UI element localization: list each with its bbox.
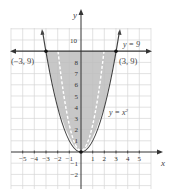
x-tick-label: −2 xyxy=(54,155,62,163)
x-tick-label: 5 xyxy=(138,155,142,163)
line-label: y = 9 xyxy=(122,40,140,49)
x-tick-label: 4 xyxy=(126,155,130,163)
y-tick-label: 6 xyxy=(75,81,79,89)
y-axis-arrow-icon xyxy=(79,9,84,15)
point-left xyxy=(44,49,48,53)
x-tick-label: 2 xyxy=(103,155,107,163)
point-origin xyxy=(79,150,83,154)
x-tick-label: 3 xyxy=(114,155,118,163)
chart: −5 −4 −3 −2 −1 1 2 3 4 5 10 8 7 6 5 4 3 … xyxy=(0,0,175,193)
point-left-label: (−3, 9) xyxy=(11,56,34,66)
x-tick-label: −4 xyxy=(31,155,39,163)
y-axis-label: y xyxy=(72,10,77,20)
parabola-right-arrow-icon xyxy=(118,29,122,35)
point-right-label: (3, 9) xyxy=(119,56,138,66)
x-tick-label: 1 xyxy=(91,155,95,163)
y-tick-label: 1 xyxy=(75,137,79,145)
x-tick-label: −5 xyxy=(19,155,27,163)
parabola-left-arrow-icon xyxy=(41,29,45,35)
x-tick-label: −3 xyxy=(42,155,50,163)
x-axis-label: x xyxy=(160,158,165,168)
y-tick-label: 8 xyxy=(75,59,79,67)
y-tick-label: 2 xyxy=(75,126,79,134)
y-tick-label: −2 xyxy=(71,171,79,179)
y-tick-label: 3 xyxy=(75,115,79,123)
parabola-label: y = x2 xyxy=(108,108,129,117)
y-tick-label: 10 xyxy=(70,37,78,45)
y-tick-label: 5 xyxy=(75,93,79,101)
y-tick-label: 4 xyxy=(75,104,79,112)
x-axis-arrow-icon xyxy=(157,150,163,155)
y-tick-label: 7 xyxy=(75,70,79,78)
y-tick-label: −1 xyxy=(71,160,79,168)
point-right xyxy=(114,49,118,53)
